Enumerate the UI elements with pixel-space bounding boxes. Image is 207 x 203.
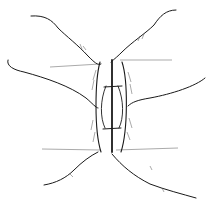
finger-mid-right — [128, 78, 205, 106]
crease-bottom — [42, 148, 178, 150]
skin-texture — [70, 34, 164, 192]
wound-left-lip-inner — [101, 86, 106, 128]
crease-top — [50, 60, 172, 67]
finger-top-left — [31, 16, 101, 65]
suture-bottom — [103, 128, 121, 129]
finger-bottom-left — [44, 152, 98, 185]
wound-right-lip-outer — [121, 62, 126, 152]
suture-top — [104, 86, 122, 87]
wound-right-lip-inner — [118, 86, 123, 128]
finger-mid-left — [8, 60, 98, 108]
finger-top-right — [111, 10, 176, 62]
surgical-illustration — [0, 0, 207, 203]
illustration — [0, 0, 207, 203]
finger-bottom-right — [112, 154, 196, 198]
